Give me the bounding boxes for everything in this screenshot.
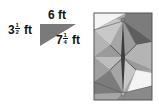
hypotenuse-unit: ft — [72, 33, 80, 47]
hypotenuse-whole: 7 — [56, 33, 63, 47]
left-side-fraction: 12 — [15, 22, 20, 35]
label-left-side: 312 ft — [8, 24, 32, 37]
top-side-unit: ft — [58, 8, 66, 22]
top-side-value: 6 — [48, 8, 55, 22]
figure-canvas — [0, 0, 159, 107]
label-hypotenuse: 714 ft — [56, 34, 80, 47]
left-side-whole: 3 — [8, 23, 15, 37]
quilt-pattern — [94, 13, 152, 100]
left-side-unit: ft — [24, 23, 32, 37]
label-top-side: 6 ft — [48, 9, 66, 21]
hypotenuse-fraction: 14 — [63, 32, 68, 45]
